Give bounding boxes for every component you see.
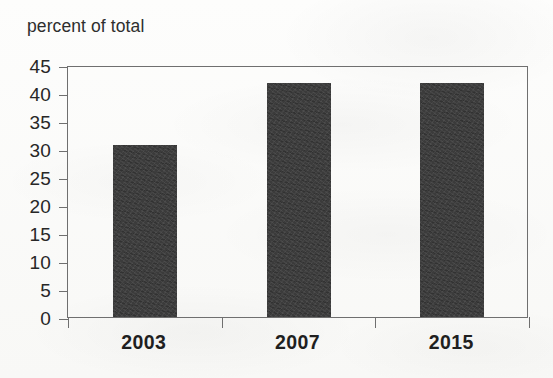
bar-2007 <box>267 83 331 317</box>
y-axis-tick-mark <box>59 179 68 180</box>
y-axis-tick-mark <box>59 207 68 208</box>
y-axis-tick-label: 35 <box>29 113 51 132</box>
y-axis-tick-mark <box>59 123 68 124</box>
x-axis-tick-label-2015: 2015 <box>429 331 474 353</box>
x-axis-tick-label-2007: 2007 <box>275 331 320 353</box>
x-axis-tick-mark <box>222 317 223 328</box>
x-axis-tick-mark <box>375 317 376 328</box>
y-axis-tick-mark <box>59 151 68 152</box>
y-axis-tick-label: 30 <box>29 141 51 160</box>
y-axis-tick-label: 0 <box>40 309 51 328</box>
y-axis-tick-label: 10 <box>29 253 51 272</box>
y-axis-tick-mark <box>59 291 68 292</box>
y-axis: 051015202530354045 <box>0 0 67 378</box>
y-axis-tick-mark <box>59 235 68 236</box>
y-axis-tick-label: 25 <box>29 169 51 188</box>
plot-area <box>67 66 528 318</box>
y-axis-tick-label: 20 <box>29 197 51 216</box>
y-axis-tick-mark <box>59 95 68 96</box>
bar-2015 <box>420 83 484 317</box>
x-axis-tick-mark <box>529 317 530 328</box>
y-axis-tick-label: 45 <box>29 57 51 76</box>
y-axis-tick-label: 40 <box>29 85 51 104</box>
plot-inner <box>68 67 527 317</box>
x-axis-tick-label-2003: 2003 <box>121 331 166 353</box>
y-axis-tick-mark <box>59 67 68 68</box>
bar-chart-figure: percent of total 051015202530354045 2003… <box>0 0 553 378</box>
y-axis-tick-label: 5 <box>40 281 51 300</box>
y-axis-tick-label: 15 <box>29 225 51 244</box>
y-axis-tick-mark <box>59 319 68 320</box>
bar-2003 <box>113 145 177 317</box>
x-axis-tick-mark <box>68 317 69 328</box>
y-axis-tick-mark <box>59 263 68 264</box>
